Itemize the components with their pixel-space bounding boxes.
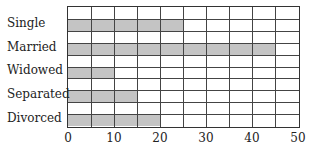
grid-line-horizontal — [68, 19, 299, 20]
grid-line-horizontal — [68, 67, 299, 68]
bar-married — [68, 43, 275, 54]
grid-line-horizontal — [68, 43, 299, 44]
grid-line-horizontal — [68, 31, 299, 32]
category-label: Divorced — [7, 111, 62, 125]
x-tick-label: 0 — [64, 131, 72, 145]
grid-line-horizontal — [68, 114, 299, 115]
grid-line-horizontal — [68, 78, 299, 79]
category-label: Separated — [7, 87, 70, 101]
x-tick-label: 40 — [244, 131, 259, 145]
x-tick-label: 30 — [198, 131, 213, 145]
category-label: Single — [7, 16, 45, 30]
plot-area — [67, 6, 300, 128]
x-tick-label: 50 — [290, 131, 305, 145]
category-label: Widowed — [7, 63, 63, 77]
x-tick-label: 20 — [152, 131, 167, 145]
bar-separated — [68, 91, 137, 102]
grid-line-horizontal — [68, 102, 299, 103]
category-label: Married — [7, 40, 57, 54]
x-tick-label: 10 — [106, 131, 121, 145]
grid-line-horizontal — [68, 55, 299, 56]
bar-single — [68, 19, 183, 30]
grid-line-horizontal — [68, 90, 299, 91]
